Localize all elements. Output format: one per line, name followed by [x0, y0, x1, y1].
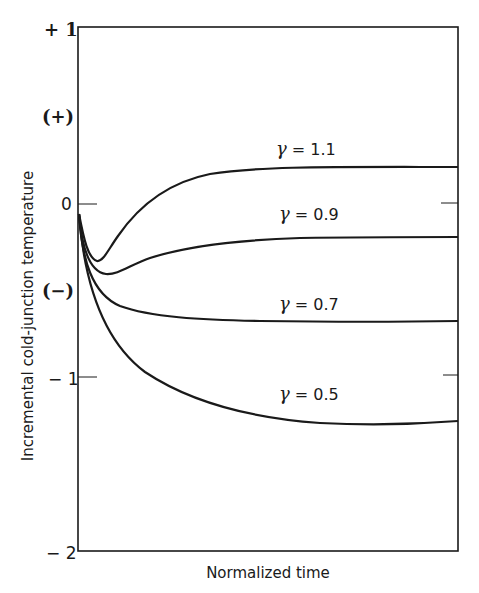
curve-gamma-0.7 — [79, 214, 458, 322]
curve-gamma-0.9 — [79, 214, 458, 274]
plot-frame — [78, 27, 458, 551]
y-tick-label-0: 0 — [61, 194, 72, 214]
y-tick-label-minus1: − 1 — [48, 369, 78, 389]
label-gamma-0.5: γ = 0.5 — [279, 383, 339, 404]
positive-sign-annotation: (+) — [42, 106, 74, 127]
y-axis-label: Incremental cold-junction temperature — [19, 171, 37, 461]
curve-gamma-0.5 — [79, 214, 458, 424]
curve-gamma-1.1 — [79, 167, 458, 261]
y-tick-label-minus2: − 2 — [46, 543, 76, 563]
negative-sign-annotation: (−) — [42, 280, 74, 301]
y-tick-label-plus1: + 1 — [44, 19, 78, 40]
label-gamma-0.9: γ = 0.9 — [279, 203, 339, 224]
label-gamma-1.1: γ = 1.1 — [276, 138, 336, 159]
chart-figure: + 1 0 − 1 − 2 (+) (−) Incremental cold-j… — [0, 0, 479, 593]
label-gamma-0.7: γ = 0.7 — [279, 293, 339, 314]
x-axis-label: Normalized time — [206, 564, 330, 582]
